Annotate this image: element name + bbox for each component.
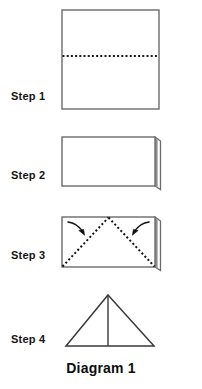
paper-rectangle	[62, 137, 155, 186]
diagram-caption: Diagram 1	[0, 360, 202, 376]
paper-square	[62, 10, 159, 109]
flap-inner-shade	[156, 139, 158, 188]
step-3-label: Step 3	[11, 249, 45, 261]
step-2-figure	[58, 133, 168, 195]
step-4-figure	[62, 291, 166, 353]
flap-inner-shade	[156, 219, 158, 269]
step-2-label: Step 2	[11, 169, 45, 181]
paper-triangle	[66, 295, 154, 346]
step-4-label: Step 4	[11, 333, 45, 345]
step-1-label: Step 1	[11, 90, 45, 102]
origami-diagram: Step 1 Step 2 Step 3	[0, 0, 202, 389]
step-1-figure	[58, 6, 164, 116]
step-3-figure	[58, 213, 168, 277]
